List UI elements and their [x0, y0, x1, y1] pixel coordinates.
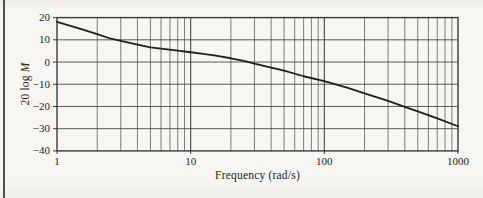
scanned-figure-page: 20100−10−20−30−401101001000 20 log M Fre…: [0, 0, 483, 198]
x-tick-label: 10: [185, 155, 197, 167]
x-tick-label: 100: [316, 155, 333, 167]
y-tick-label: −10: [33, 78, 51, 90]
y-axis-title: 20 log M: [19, 62, 31, 105]
x-tick-label: 1: [54, 155, 60, 167]
y-tick-label: −20: [33, 100, 51, 112]
y-tick-label: 20: [39, 11, 51, 23]
magnitude-curve: [57, 22, 458, 126]
x-axis-title: Frequency (rad/s): [57, 169, 458, 181]
y-tick-label: −30: [33, 122, 51, 134]
y-tick-label: −40: [33, 144, 51, 156]
y-tick-label: 0: [45, 56, 51, 68]
y-axis-title-variable: M: [19, 62, 31, 72]
y-axis-title-text: 20 log: [19, 72, 31, 105]
x-tick-label: 1000: [447, 155, 470, 167]
y-tick-label: 10: [39, 33, 51, 45]
